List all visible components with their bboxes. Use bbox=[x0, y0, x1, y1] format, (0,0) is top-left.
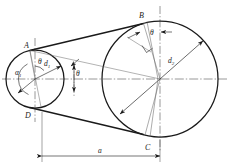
diagram-canvas: A B C D α1 θ d1 θ θ d2 a bbox=[0, 0, 230, 168]
label-center-distance: a bbox=[98, 146, 102, 155]
belt-tangent-lower bbox=[30, 108, 144, 135]
perpendicular-foot-line bbox=[127, 37, 151, 52]
large-pulley-line-C-offset bbox=[150, 79, 158, 137]
label-d1-subscript: 1 bbox=[48, 64, 51, 69]
belt-tangent-upper bbox=[30, 24, 144, 51]
label-d2: d2 bbox=[168, 56, 175, 66]
label-theta-small: θ bbox=[38, 57, 42, 66]
theta-midspan-arrow-upper bbox=[71, 59, 79, 66]
large-pulley-line-C-to-center bbox=[145, 79, 160, 135]
label-point-c: C bbox=[145, 143, 151, 152]
label-alpha1: α1 bbox=[15, 68, 21, 78]
belt-drive-diagram: A B C D α1 θ d1 θ θ d2 a bbox=[0, 0, 230, 168]
label-point-d: D bbox=[24, 111, 31, 120]
label-d2-subscript: 2 bbox=[172, 61, 175, 66]
label-theta-midspan: θ bbox=[76, 69, 80, 78]
small-pulley-radius-line bbox=[30, 51, 35, 79]
theta1-angle-arc bbox=[35, 66, 44, 71]
d1-radius-arrow-opposite bbox=[18, 79, 35, 93]
label-point-b: B bbox=[139, 11, 144, 20]
label-alpha1-subscript: 1 bbox=[19, 73, 22, 78]
d2-diameter-arrow-upper bbox=[160, 41, 203, 79]
label-theta-large: θ bbox=[150, 28, 154, 37]
theta2-arrow-left bbox=[128, 32, 140, 38]
label-point-a: A bbox=[23, 41, 29, 50]
label-d1: d1 bbox=[44, 59, 50, 69]
